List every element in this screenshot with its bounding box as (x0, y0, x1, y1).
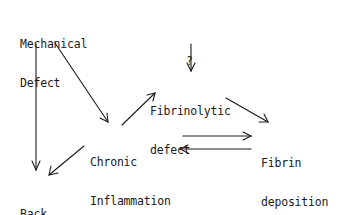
node-fibrin-deposition-line2: deposition (261, 196, 328, 209)
arrow-chronic-to-backpain (49, 146, 84, 175)
node-chronic-inflammation-line2: Inflammation (90, 195, 171, 208)
node-back-pain-line1: Back (20, 208, 47, 215)
node-mechanical-defect: Mechanical Defect (20, 12, 87, 116)
node-mechanical-defect-line1: Mechanical (20, 38, 87, 51)
node-chronic-inflammation: Chronic Inflammation (90, 130, 171, 215)
node-mechanical-defect-line2: Defect (20, 77, 87, 90)
arrow-fibrinolytic-to-fibrin (226, 98, 268, 122)
node-fibrin-deposition-line1: Fibrin (261, 157, 328, 170)
node-fibrinolytic-defect-line1: Fibrinolytic (150, 105, 231, 118)
node-chronic-inflammation-line1: Chronic (90, 156, 171, 169)
pathogenesis-diagram: Mechanical Defect ? Fibrinolytic defect … (0, 0, 353, 215)
node-unknown-label: ? (186, 55, 213, 68)
node-fibrin-deposition: Fibrin deposition (261, 131, 328, 215)
node-back-pain: Back Pain (20, 182, 47, 215)
